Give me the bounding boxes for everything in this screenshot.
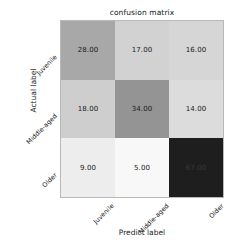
y-axis-label: Actual label xyxy=(29,56,38,126)
confusion-matrix-figure: confusion matrix Actual label Juvenile M… xyxy=(0,0,242,247)
cell-value: 18.00 xyxy=(78,105,99,113)
matrix-cell: 17.00 xyxy=(115,21,169,80)
x-tick-label-middle-aged: Middle-aged xyxy=(123,202,171,247)
cell-value: 28.00 xyxy=(78,46,99,54)
cell-value: 5.00 xyxy=(134,164,150,172)
x-axis-label: Predict label xyxy=(60,228,224,237)
cell-value: 17.00 xyxy=(132,46,153,54)
cell-value: 14.00 xyxy=(186,105,207,113)
matrix-cell: 34.00 xyxy=(115,80,169,139)
matrix-cell: 67.00 xyxy=(169,138,223,197)
matrix-cell: 9.00 xyxy=(61,138,115,197)
cell-value: 67.00 xyxy=(186,164,207,172)
matrix-cell: 16.00 xyxy=(169,21,223,80)
cell-value: 9.00 xyxy=(80,164,96,172)
cell-value: 16.00 xyxy=(186,46,207,54)
x-tick-label-older: Older xyxy=(178,202,226,247)
matrix-cell: 5.00 xyxy=(115,138,169,197)
matrix-cell: 18.00 xyxy=(61,80,115,139)
matrix-cell: 14.00 xyxy=(169,80,223,139)
chart-title: confusion matrix xyxy=(60,8,224,17)
x-tick-label-juvenile: Juvenile xyxy=(68,202,116,247)
cell-value: 34.00 xyxy=(132,105,153,113)
y-tick-label-older: Older xyxy=(11,171,59,219)
matrix-plot-area: 28.00 17.00 16.00 18.00 34.00 14.00 9.00… xyxy=(60,20,224,198)
matrix-cell: 28.00 xyxy=(61,21,115,80)
